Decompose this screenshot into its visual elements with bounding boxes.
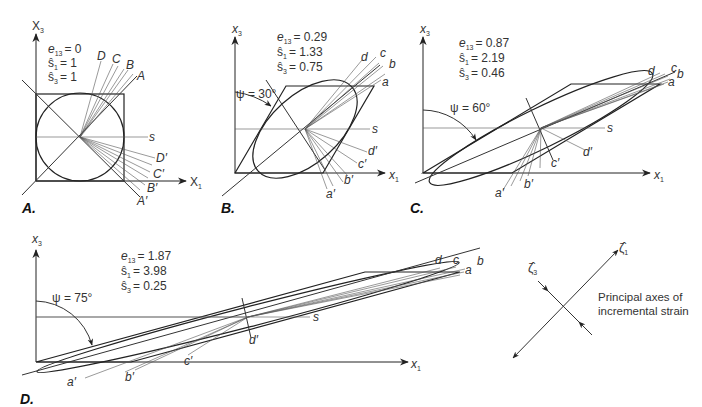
zeta1-label: ζ̂1 [619,241,628,256]
line-label: A′ [136,194,148,208]
panel-label-a: A. [21,200,36,216]
svg-text:ŝ3= 0.75: ŝ3= 0.75 [277,60,323,75]
svg-text:e13= 0.87: e13= 0.87 [459,36,510,51]
svg-text:a: a [382,75,389,89]
svg-text:d′: d′ [368,144,378,158]
figure-canvas: X3 X1 e13= 0 ŝ1= 1 ŝ3= 1 D C B A s D′ C′… [0,0,702,407]
strain-params: e13= 0.29 ŝ1= 1.33 ŝ3= 0.75 [277,30,328,75]
svg-text:e13= 0: e13= 0 [48,42,82,57]
line-label: A [136,69,145,83]
strain-params: e13= 0 ŝ1= 1 ŝ3= 1 [48,42,82,85]
svg-text:c: c [380,46,386,60]
svg-text:a′: a′ [326,187,336,201]
zeta3-label: ζ̂3 [528,261,537,276]
svg-text:b′: b′ [125,370,135,384]
svg-text:d: d [435,253,442,267]
legend-caption-line2: incremental strain [598,305,689,317]
svg-text:e13= 0.29: e13= 0.29 [277,30,328,45]
strain-params: e13= 1.87 ŝ1= 3.98 ŝ3= 0.25 [121,249,172,294]
svg-text:c′: c′ [358,157,367,171]
svg-text:d: d [361,50,368,64]
svg-text:a: a [668,75,675,89]
svg-text:c′: c′ [184,354,193,368]
svg-text:b′: b′ [524,177,534,191]
zeta3-compression-arrow-icon [538,281,548,291]
svg-text:a′: a′ [67,375,77,389]
svg-text:ŝ1= 1: ŝ1= 1 [48,56,77,71]
panel-c: ψ = 60° x3 x1 e13= 0.87 ŝ1= 2.19 ŝ3= 0.4… [410,22,684,216]
svg-text:a′: a′ [495,186,505,200]
svg-text:ŝ3= 1: ŝ3= 1 [48,70,77,85]
line-label: D [97,49,106,63]
svg-text:ŝ3= 0.46: ŝ3= 0.46 [459,66,505,81]
legend-caption-line1: Principal axes of [598,291,683,303]
svg-text:ŝ1= 2.19: ŝ1= 2.19 [459,51,505,66]
svg-text:b: b [389,57,396,71]
svg-text:x1: x1 [388,168,399,183]
svg-text:d′: d′ [583,145,593,159]
svg-text:d: d [648,64,655,78]
svg-text:x1: x1 [410,357,421,372]
psi-label: ψ = 75° [52,291,93,305]
svg-text:x1: x1 [653,168,664,183]
svg-text:e13= 1.87: e13= 1.87 [121,249,172,264]
svg-text:x3: x3 [419,22,430,37]
svg-text:x3: x3 [231,22,242,37]
line-label: C [112,52,121,66]
line-label: C′ [153,167,165,181]
panel-d: ψ = 75° x3 x1 e13= 1.87 ŝ1= 3.98 ŝ3= 0.2… [20,232,484,407]
strain-params: e13= 0.87 ŝ1= 2.19 ŝ3= 0.46 [459,36,510,81]
svg-text:b: b [677,67,684,81]
svg-text:s: s [607,121,613,135]
svg-text:x3: x3 [31,232,42,247]
diagonal-line [22,80,140,197]
panel-label-d: D. [20,391,34,407]
svg-text:ŝ3= 0.25: ŝ3= 0.25 [121,279,167,294]
svg-text:s: s [372,122,378,136]
svg-text:c′: c′ [551,156,560,170]
svg-text:d′: d′ [249,333,259,347]
zeta3-compression-arrow-icon [579,322,592,335]
svg-text:a: a [465,263,472,277]
svg-text:s: s [313,310,319,324]
line-label: D′ [156,151,168,165]
line-label: B [126,58,134,72]
panel-label-b: B. [221,200,235,216]
line-label: B′ [147,181,158,195]
psi-label: ψ = 30° [236,87,277,101]
svg-text:ŝ1= 3.98: ŝ1= 3.98 [121,264,167,279]
svg-text:c: c [453,253,459,267]
principal-axes-legend: ζ̂1 ζ̂3 Principal axes of incremental st… [513,241,689,358]
x3-axis-label: X3 [32,19,44,34]
svg-text:ŝ1= 1.33: ŝ1= 1.33 [277,45,323,60]
x1-axis-label: X1 [190,175,202,190]
svg-text:b′: b′ [344,173,354,187]
panel-label-c: C. [410,200,424,216]
svg-text:b: b [477,254,484,268]
s-label: s [149,130,155,144]
psi-label: ψ = 60° [450,101,491,115]
panel-b: ψ = 30° x3 x1 e13= 0.29 ŝ1= 1.33 ŝ3= 0.7… [221,22,399,216]
panel-a: X3 X1 e13= 0 ŝ1= 1 ŝ3= 1 D C B A s D′ C′… [21,19,202,216]
